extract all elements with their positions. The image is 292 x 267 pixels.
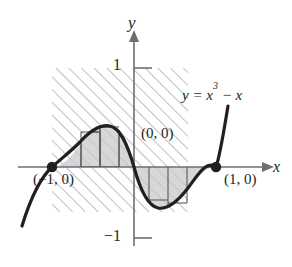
root-right-label: (1, 0) [224, 172, 257, 187]
y-tick-label-negative-one: −1 [104, 228, 121, 244]
root-point-right-marker [211, 162, 221, 172]
cubic-function-figure: y x 1 −1 y = x3 − x (0, 0) (−1, 0) (1, 0… [0, 0, 292, 267]
x-axis-label: x [273, 159, 280, 175]
equation-lhs: y = x [182, 87, 213, 103]
equation-rhs: − x [218, 87, 242, 103]
equation-exponent: 3 [213, 80, 218, 91]
root-left-label: (−1, 0) [33, 172, 74, 187]
origin-point-label: (0, 0) [141, 126, 174, 141]
equation-label: y = x3 − x [182, 86, 242, 103]
y-axis-label: y [128, 14, 136, 31]
y-tick-label-positive-one: 1 [113, 57, 121, 73]
